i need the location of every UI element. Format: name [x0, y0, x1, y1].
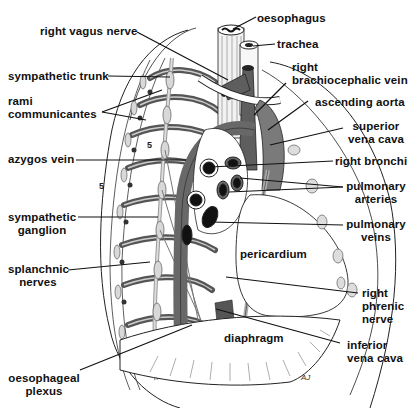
label-line: sympathetic	[8, 211, 76, 224]
label-splanchnic-nerves: splanchnic nerves	[8, 263, 68, 289]
label-line: arteries	[345, 193, 407, 206]
label-line: ganglion	[8, 224, 76, 237]
label-line: inferior	[347, 339, 403, 352]
label-line: nerve	[362, 313, 404, 326]
label-line: right	[362, 287, 404, 300]
rib-marker-5: 5	[99, 181, 104, 191]
label-pericardium: pericardium	[240, 248, 307, 261]
label-line: right	[292, 61, 408, 74]
label-ascending-aorta: ascending aorta	[315, 96, 405, 109]
mediastinum-diagram: right vagus nerve sympathetic trunk rami…	[0, 0, 408, 408]
label-right-brachiocephalic-vein: right brachiocephalic vein	[292, 61, 408, 87]
label-line: rami	[8, 95, 97, 108]
label-right-bronchi: right bronchi	[335, 155, 407, 168]
label-oesophagus: oesophagus	[257, 12, 326, 25]
label-line: vena cava	[347, 352, 403, 365]
label-oesophageal-plexus: oesophageal plexus	[8, 372, 80, 398]
label-superior-vena-cava: superior vena cava	[347, 120, 405, 146]
label-diaphragm: diaphragm	[224, 332, 284, 345]
label-line: pulmonary	[345, 180, 407, 193]
label-line: oesophageal	[8, 372, 80, 385]
label-line: nerves	[8, 276, 68, 289]
label-sympathetic-ganglion: sympathetic ganglion	[8, 211, 76, 237]
artist-signature: AJ	[301, 373, 310, 382]
label-line: pulmonary	[345, 218, 407, 231]
rib-marker-5: 5	[147, 140, 152, 150]
label-line: splanchnic	[8, 263, 68, 276]
label-pulmonary-arteries: pulmonary arteries	[345, 180, 407, 206]
label-pulmonary-veins: pulmonary veins	[345, 218, 407, 244]
ascending-aorta-shape	[255, 100, 284, 190]
label-right-phrenic-nerve: right phrenic nerve	[362, 287, 404, 326]
label-azygos-vein: azygos vein	[8, 153, 74, 166]
label-trachea: trachea	[277, 38, 319, 51]
label-line: plexus	[8, 385, 80, 398]
label-line: phrenic	[362, 300, 404, 313]
label-line: brachiocephalic vein	[292, 74, 408, 87]
label-inferior-vena-cava: inferior vena cava	[347, 339, 403, 365]
label-line: veins	[345, 231, 407, 244]
label-right-vagus-nerve: right vagus nerve	[40, 25, 138, 38]
label-line: vena cava	[347, 133, 405, 146]
label-line: superior	[347, 120, 405, 133]
label-sympathetic-trunk: sympathetic trunk	[8, 70, 109, 83]
label-rami-communicantes: rami communicantes	[8, 95, 97, 121]
label-line: communicantes	[8, 108, 97, 121]
